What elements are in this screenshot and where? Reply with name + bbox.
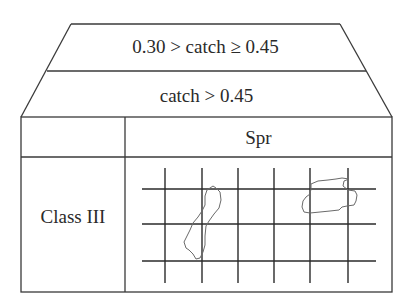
header-row-1-label: 0.30 > catch ≥ 0.45 [71,37,340,56]
grid [142,168,376,283]
row-header-class: Class III [21,207,125,226]
header-row-2-label: catch > 0.45 [47,86,366,105]
column-header-spr: Spr [125,128,392,147]
